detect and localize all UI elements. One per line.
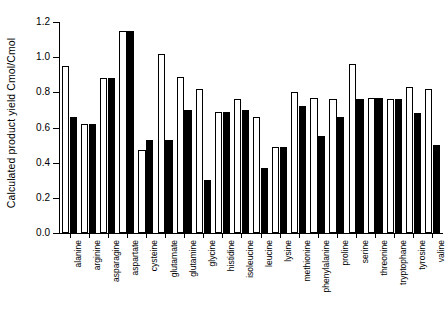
y-axis-title: Calculated product yield Cmol/Cmol [0,8,22,238]
x-tick-mark [108,234,109,238]
y-tick-label: 1.0 [24,52,50,62]
x-tick-mark [203,234,204,238]
x-tick-mark [413,234,414,238]
x-tick-label-lysine: lysine [283,218,293,240]
x-tick-mark [165,234,166,238]
bar-group [138,22,153,233]
bar-group [329,22,344,233]
y-tick-label: 0.4 [24,158,50,168]
bar-group [368,22,383,233]
x-tick-label-glutamine: glutamine [188,203,198,240]
bar-filled-aspartate [127,31,134,233]
bar-open-methionine [291,92,298,233]
x-tick-label-isoleucine: isoleucine [245,202,255,240]
bar-group [158,22,173,233]
bar-group [406,22,421,233]
bar-open-serine [349,64,356,233]
y-tick-label: 0.0 [24,228,50,238]
x-tick-label-glycine: glycine [207,214,217,240]
y-tick-label: 1.2 [24,17,50,27]
x-tick-mark [432,234,433,238]
bar-open-alanine [62,66,69,233]
x-tick-label-tryptophane: tryptophane [398,195,408,240]
x-tick-label-histidine: histidine [226,209,236,240]
x-tick-mark [89,234,90,238]
y-tick-mark [53,198,59,199]
y-tick-mark [53,92,59,93]
x-tick-label-leucine: leucine [264,213,274,240]
x-tick-mark [222,234,223,238]
x-tick-mark [280,234,281,238]
bar-group [349,22,364,233]
y-tick-mark [53,128,59,129]
x-tick-label-alanine: alanine [73,213,83,240]
x-tick-mark [356,234,357,238]
x-tick-mark [337,234,338,238]
x-tick-mark [261,234,262,238]
x-tick-label-serine: serine [360,217,370,240]
bar-group [253,22,268,233]
x-tick-label-cysteine: cysteine [149,209,159,240]
y-tick-mark [53,22,59,23]
x-tick-mark [394,234,395,238]
y-tick-label: 0.2 [24,193,50,203]
x-tick-mark [299,234,300,238]
bar-group [119,22,134,233]
y-tick-label: 0.8 [24,87,50,97]
bar-group [215,22,230,233]
x-tick-mark [146,234,147,238]
x-tick-mark [184,234,185,238]
bar-open-glutamate [158,54,165,233]
y-tick-label: 0.6 [24,123,50,133]
x-tick-mark [375,234,376,238]
x-tick-label-aspartate: aspartate [130,205,140,240]
y-tick-mark [53,163,59,164]
bar-group [81,22,96,233]
bar-group [177,22,192,233]
y-tick-mark [53,57,59,58]
bar-group [196,22,211,233]
bar-group [272,22,287,233]
bar-chart-figure: Calculated product yield Cmol/Cmol 0.00.… [0,0,448,310]
bar-open-threonine [368,98,375,233]
x-tick-label-glutamate: glutamate [169,203,179,240]
x-tick-label-tyrosine: tyrosine [417,210,427,240]
y-tick-mark [53,233,59,234]
x-tick-label-valine: valine [436,218,446,240]
bar-group [425,22,440,233]
x-tick-mark [127,234,128,238]
x-tick-label-threonine: threonine [379,205,389,240]
x-tick-label-proline: proline [340,214,350,240]
x-tick-mark [318,234,319,238]
x-tick-label-methionine: methionine [302,198,312,240]
bar-filled-serine [356,99,363,233]
x-tick-label-asparagine: asparagine [111,198,121,240]
x-tick-mark [70,234,71,238]
bar-group [62,22,77,233]
x-tick-label-phenylalanine: phenylalanine [321,188,331,240]
x-tick-label-arginine: arginine [92,210,102,240]
x-tick-mark [241,234,242,238]
